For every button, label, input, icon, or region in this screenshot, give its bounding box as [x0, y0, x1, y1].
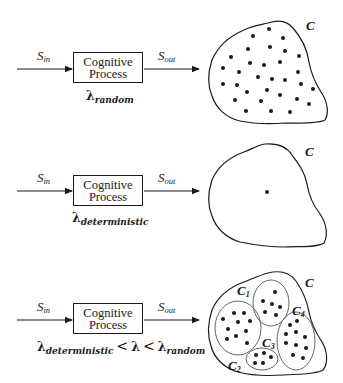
cluster-c4-points	[284, 319, 308, 360]
signal-sub: out	[165, 305, 176, 315]
set-c-label: C	[305, 275, 314, 291]
cluster-base: C	[262, 335, 271, 350]
box-line-1: Cognitive	[83, 179, 132, 191]
input-signal-label: Sin	[37, 299, 50, 315]
box-line-2: Process	[89, 68, 127, 80]
single-point	[265, 190, 269, 194]
less-than-operator: <	[116, 338, 128, 354]
lambda-range-label: λdeterministic<λ<λrandom	[37, 338, 205, 356]
lambda-sub: random	[95, 95, 134, 105]
lambda-sub: deterministic	[81, 217, 149, 227]
signal-sub: in	[44, 54, 51, 64]
cluster-sub: 3	[271, 342, 275, 351]
cluster-c1-label: C1	[237, 283, 250, 299]
output-signal-label: Sout	[158, 299, 175, 315]
panel-deterministic	[17, 144, 326, 247]
lambda-symbol: λ	[86, 88, 95, 103]
lambda-deterministic-label: λdeterministic	[72, 210, 148, 227]
cognitive-process-box: Cognitive Process	[73, 175, 143, 206]
lambda-symbol: λ	[37, 339, 46, 354]
signal-sub: in	[44, 305, 51, 315]
lambda-symbol: λ	[131, 339, 140, 354]
cluster-c3-points	[253, 351, 273, 365]
cognitive-process-box: Cognitive Process	[73, 303, 143, 334]
cluster-sub: 2	[237, 365, 241, 374]
cluster-c2-points	[221, 311, 252, 345]
lambda-sub: random	[166, 346, 205, 356]
box-line-1: Cognitive	[83, 56, 132, 68]
cluster-c3-label: C3	[262, 335, 275, 351]
lambda-sub: deterministic	[46, 346, 114, 356]
output-signal-label: Sout	[158, 170, 175, 186]
cognitive-process-box: Cognitive Process	[73, 52, 143, 83]
box-line-2: Process	[89, 191, 127, 203]
signal-sub: out	[165, 54, 176, 64]
output-signal-label: Sout	[158, 48, 175, 64]
input-signal-label: Sin	[37, 170, 50, 186]
signal-sub: in	[44, 176, 51, 186]
box-line-1: Cognitive	[83, 307, 132, 319]
panel-random	[17, 21, 327, 123]
signal-sub: out	[165, 176, 176, 186]
panel-intermediate	[17, 272, 327, 376]
box-line-2: Process	[89, 319, 127, 331]
cluster-base: C	[292, 303, 301, 318]
lambda-symbol: λ	[72, 210, 81, 225]
cluster-c4-label: C4	[292, 303, 305, 319]
cluster-base: C	[237, 283, 246, 298]
cluster-c2	[215, 301, 261, 355]
set-c-region	[209, 21, 328, 123]
cluster-c1-points	[261, 290, 282, 317]
lambda-random-label: λrandom	[86, 88, 134, 105]
cluster-sub: 1	[246, 290, 250, 299]
set-c-label: C	[306, 18, 315, 34]
cluster-c3	[246, 348, 278, 370]
cluster-base: C	[228, 358, 237, 373]
cluster-c2-label: C2	[228, 358, 241, 374]
cluster-sub: 4	[301, 310, 305, 319]
input-signal-label: Sin	[37, 48, 50, 64]
set-c-label: C	[305, 144, 314, 160]
less-than-operator: <	[143, 338, 155, 354]
